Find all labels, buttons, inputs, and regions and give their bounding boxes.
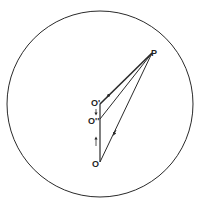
label-o-double-prime: O'' xyxy=(88,116,99,126)
segment-p-odoubleprime xyxy=(100,53,152,119)
diagram-canvas: P O' O'' O xyxy=(0,0,199,203)
segment-p-oprime xyxy=(100,53,152,104)
label-o-prime: O' xyxy=(91,98,100,108)
arrow-marker-icon xyxy=(108,92,112,96)
label-o: O xyxy=(92,159,99,169)
segment-p-o xyxy=(100,53,152,162)
label-p: P xyxy=(151,48,157,58)
